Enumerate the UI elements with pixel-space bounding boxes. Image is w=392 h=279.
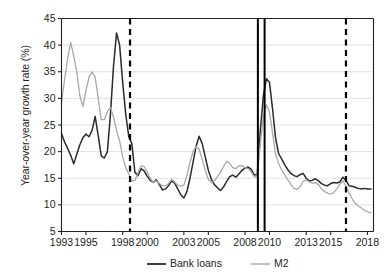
chart-legend: Bank loansM2 xyxy=(147,257,289,269)
gridlines-group xyxy=(62,45,374,205)
y-tick-label-20: 20 xyxy=(44,145,56,157)
x-tick-label-1998: 1998 xyxy=(111,236,135,248)
legend-label-bank-loans: Bank loans xyxy=(170,257,222,269)
chart-plot: 51015202530354045 1993199519982000200320… xyxy=(0,0,392,279)
x-axis-ticks: 1993199519982000200320052008201020132015… xyxy=(50,232,379,249)
x-tick-label-2005: 2005 xyxy=(197,236,221,248)
x-tick-label-2018: 2018 xyxy=(356,236,380,248)
y-tick-label-25: 25 xyxy=(44,119,56,131)
y-tick-label-40: 40 xyxy=(44,39,56,51)
y-axis-ticks: 51015202530354045 xyxy=(44,12,62,237)
x-tick-label-2000: 2000 xyxy=(135,236,159,248)
y-tick-label-10: 10 xyxy=(44,198,56,210)
legend-label-m2: M2 xyxy=(274,257,289,269)
y-tick-label-15: 15 xyxy=(44,172,56,184)
x-tick-label-2008: 2008 xyxy=(233,236,257,248)
chart-figure: Year-over-year growth rate (%) 510152025… xyxy=(0,0,392,279)
x-tick-label-1995: 1995 xyxy=(74,236,98,248)
x-tick-label-2015: 2015 xyxy=(319,236,343,248)
x-tick-label-2003: 2003 xyxy=(172,236,196,248)
y-tick-label-35: 35 xyxy=(44,65,56,77)
x-tick-label-2013: 2013 xyxy=(295,236,319,248)
y-tick-label-45: 45 xyxy=(44,12,56,24)
y-tick-label-30: 30 xyxy=(44,92,56,104)
series-line-bank-loans xyxy=(62,33,372,198)
x-tick-label-1993: 1993 xyxy=(50,236,74,248)
x-tick-label-2010: 2010 xyxy=(258,236,282,248)
series-group xyxy=(62,33,372,213)
